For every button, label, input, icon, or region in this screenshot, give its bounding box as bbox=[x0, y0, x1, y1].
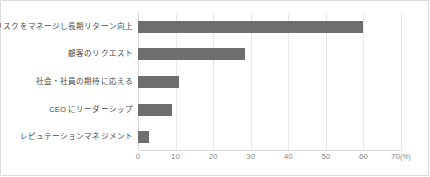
bar-row: 社会・社員の期待に応える bbox=[138, 68, 401, 96]
category-label: レピュテーションマネジメント bbox=[20, 133, 133, 141]
x-tick-label: 70 bbox=[391, 152, 400, 161]
bar-rows: リスクをマネージし長期リターン向上 顧客のリクエスト 社会・社員の期待に応える … bbox=[138, 13, 401, 151]
x-tick-label: 40 bbox=[284, 153, 293, 161]
axis-unit-label: (%) bbox=[400, 153, 411, 160]
bar-value bbox=[138, 104, 172, 116]
chart-frame: リスクをマネージし長期リターン向上 顧客のリクエスト 社会・社員の期待に応える … bbox=[0, 0, 429, 176]
bar-value bbox=[138, 48, 245, 60]
x-tick-label-last: 70(%) bbox=[391, 153, 411, 161]
x-tick-label: 30 bbox=[246, 153, 255, 161]
bar-row: リスクをマネージし長期リターン向上 bbox=[138, 13, 401, 41]
category-label: 社会・社員の期待に応える bbox=[36, 78, 133, 86]
bar-value bbox=[138, 131, 149, 143]
x-tick-label: 20 bbox=[209, 153, 218, 161]
x-tick-label: 0 bbox=[136, 153, 140, 161]
bar-row: レピュテーションマネジメント bbox=[138, 123, 401, 151]
bar-value bbox=[138, 76, 179, 88]
x-tick-label: 50 bbox=[321, 153, 330, 161]
gridline-70 bbox=[401, 13, 402, 151]
bar-value bbox=[138, 21, 363, 33]
bar-row: 顧客のリクエスト bbox=[138, 41, 401, 69]
x-tick-label: 60 bbox=[359, 153, 368, 161]
x-tick-label: 10 bbox=[171, 153, 180, 161]
plot-area: リスクをマネージし長期リターン向上 顧客のリクエスト 社会・社員の期待に応える … bbox=[138, 13, 401, 151]
x-axis-tick-labels: 0 10 20 30 40 50 60 70(%) bbox=[138, 153, 401, 167]
bar-row: CEO にリーダーシップ bbox=[138, 96, 401, 124]
category-label: CEO にリーダーシップ bbox=[49, 106, 133, 114]
category-label: 顧客のリクエスト bbox=[68, 51, 133, 59]
category-label: リスクをマネージし長期リターン向上 bbox=[0, 23, 133, 31]
